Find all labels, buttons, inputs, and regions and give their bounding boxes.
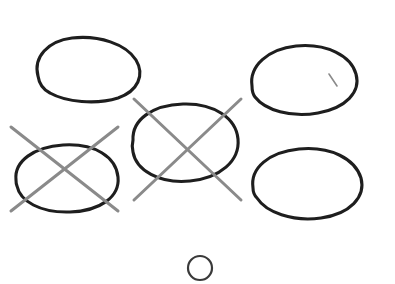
drawing-canvas[interactable] [0, 0, 395, 284]
drawing-surface[interactable] [0, 0, 395, 284]
